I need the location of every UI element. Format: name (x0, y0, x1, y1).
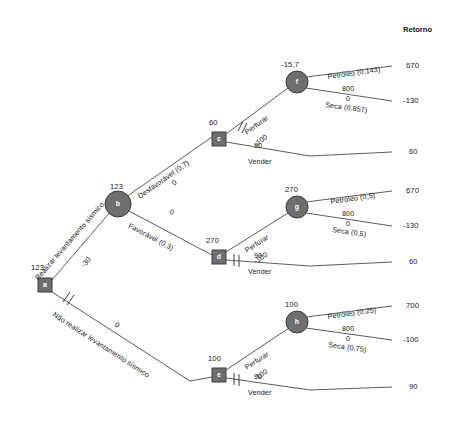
decision-tree-diagram (0, 0, 451, 421)
branch-label-e-t9: Vender (248, 388, 271, 397)
payoff-value: 700 (406, 301, 419, 310)
node-b-chance-circle[interactable] (105, 191, 131, 217)
node-c-decision-square[interactable] (212, 132, 226, 146)
branch-cost-f-oil: 800 (342, 84, 354, 93)
branch-cost-d-t6: 90 (254, 251, 262, 260)
branch-cost-h-oil: 800 (342, 324, 354, 333)
payoff-value: 60 (409, 257, 418, 266)
branch-cost-g-oil: 800 (342, 209, 354, 218)
node-e-decision-square[interactable] (212, 368, 226, 382)
edge-b-c (126, 137, 212, 197)
node-d-value: 270 (206, 236, 219, 245)
edge-c-t3 (226, 142, 392, 156)
payoff-value: -100 (403, 335, 419, 344)
branch-label-c-t3: Vender (248, 157, 271, 166)
node-h-value: 100 (285, 300, 298, 309)
node-c-value: 60 (209, 118, 218, 127)
branch-cost-c-t3: 90 (254, 141, 262, 150)
branch-cost-e-t9: 90 (254, 372, 262, 381)
branch-cost-f-dry: 0 (346, 94, 350, 103)
payoff-value: -130 (403, 96, 419, 105)
payoff-value: 670 (406, 186, 419, 195)
branch-label-d-t6: Vender (248, 267, 271, 276)
node-g-chance-circle[interactable] (286, 196, 308, 218)
prune-mark-a-e (63, 292, 74, 305)
node-e-value: 100 (208, 354, 221, 363)
node-f-chance-circle[interactable] (286, 71, 308, 93)
payoff-value: 670 (406, 61, 419, 70)
payoff-value: -130 (403, 221, 419, 230)
node-h-chance-circle[interactable] (286, 311, 308, 333)
node-b-value: 123 (110, 182, 123, 191)
payoff-value: 90 (409, 382, 418, 391)
returns-column-header: Retorno (403, 25, 432, 34)
edge-d-t6 (226, 260, 392, 266)
node-d-decision-square[interactable] (212, 250, 226, 264)
node-g-value: 270 (285, 185, 298, 194)
node-f-value: -15,7 (281, 60, 299, 69)
payoff-value: 60 (409, 147, 418, 156)
